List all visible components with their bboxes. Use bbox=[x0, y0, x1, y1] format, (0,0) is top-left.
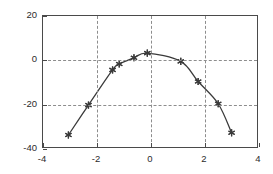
data-point-marker bbox=[116, 60, 122, 67]
gridline-vertical bbox=[151, 16, 152, 147]
x-tick-mark bbox=[259, 143, 260, 147]
plot-area bbox=[42, 15, 258, 148]
gridline-vertical bbox=[205, 16, 206, 147]
y-tick-label: -40 bbox=[2, 143, 37, 153]
y-tick-mark bbox=[43, 16, 47, 17]
x-tick-label: -2 bbox=[81, 154, 111, 164]
x-tick-label: 4 bbox=[243, 154, 273, 164]
y-tick-mark bbox=[43, 60, 47, 61]
x-tick-label: 0 bbox=[135, 154, 165, 164]
data-line bbox=[68, 53, 231, 135]
y-tick-label: -20 bbox=[2, 99, 37, 109]
gridline-vertical bbox=[97, 16, 98, 147]
x-tick-mark bbox=[97, 143, 98, 147]
data-point-marker bbox=[228, 129, 234, 136]
gridline-horizontal bbox=[43, 105, 257, 106]
data-curve-svg bbox=[43, 16, 257, 147]
x-tick-mark bbox=[43, 143, 44, 147]
y-tick-label: 20 bbox=[2, 10, 37, 20]
data-point-marker bbox=[178, 58, 184, 65]
chart-figure: -4-2024-40-20020 bbox=[0, 0, 273, 174]
x-tick-mark bbox=[151, 143, 152, 147]
x-tick-label: -4 bbox=[27, 154, 57, 164]
x-tick-mark bbox=[205, 143, 206, 147]
gridline-horizontal bbox=[43, 60, 257, 61]
y-tick-mark bbox=[43, 149, 47, 150]
x-tick-label: 2 bbox=[189, 154, 219, 164]
y-tick-label: 0 bbox=[2, 54, 37, 64]
y-tick-mark bbox=[43, 105, 47, 106]
